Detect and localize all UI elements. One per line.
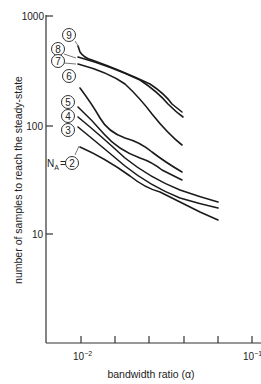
marker-2: 2	[69, 158, 75, 169]
na-label: NA=	[47, 158, 66, 171]
marker-7: 7	[55, 56, 61, 67]
marker-3: 3	[65, 125, 71, 136]
y-tick-100: 100	[26, 121, 43, 132]
x-tick-1e-1: 10−1	[243, 350, 261, 362]
marker-4: 4	[65, 111, 71, 122]
y-axis-label: number of samples to reach the steady-st…	[12, 76, 24, 284]
series-markers: 9 8 7 6 5 4 3 2 NA=	[47, 29, 79, 172]
log-log-line-chart: 1000 100 10 10−2 10−1 bandwidth ratio (α…	[0, 0, 261, 384]
y-tick-10: 10	[32, 229, 44, 240]
series-curves	[78, 46, 218, 220]
x-axis-label: bandwidth ratio (α)	[107, 368, 194, 380]
y-tick-1000: 1000	[22, 11, 45, 22]
x-tick-1e-2: 10−2	[73, 350, 92, 362]
x-axis: 10−2 10−1	[46, 336, 261, 362]
marker-6: 6	[66, 71, 72, 82]
y-axis: 1000 100 10	[22, 11, 53, 343]
curve-n4	[78, 117, 218, 202]
marker-5: 5	[65, 97, 71, 108]
marker-9: 9	[66, 30, 72, 41]
marker-8: 8	[55, 44, 61, 55]
